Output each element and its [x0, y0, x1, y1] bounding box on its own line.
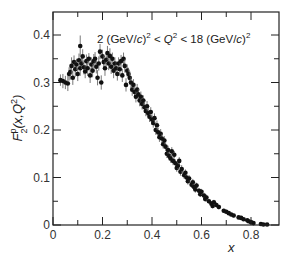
- marker: [152, 116, 157, 121]
- marker: [179, 167, 184, 172]
- marker: [204, 195, 209, 200]
- marker: [87, 56, 92, 61]
- y-tick-label: 0.3: [33, 76, 50, 90]
- marker: [124, 83, 129, 88]
- data-point: [78, 35, 83, 56]
- marker: [96, 61, 101, 66]
- marker: [194, 183, 199, 188]
- y-tick-label: 0: [43, 218, 50, 232]
- x-tick-label: 0.8: [243, 228, 260, 242]
- marker: [115, 72, 120, 77]
- marker: [120, 73, 125, 78]
- data-point: [231, 213, 236, 218]
- marker: [88, 73, 93, 78]
- x-tick-label: 0.6: [193, 228, 210, 242]
- marker: [172, 152, 177, 157]
- marker: [75, 72, 80, 77]
- marker: [155, 123, 160, 128]
- x-axis-label: x: [227, 240, 235, 255]
- y-tick-label: 0.2: [33, 123, 50, 137]
- marker: [231, 213, 236, 218]
- marker: [199, 189, 204, 194]
- marker: [118, 67, 123, 72]
- marker: [85, 66, 90, 71]
- marker: [162, 138, 167, 143]
- marker: [99, 80, 104, 85]
- y-axis-label: Fp2(x,Q2): [8, 95, 29, 142]
- marker: [80, 54, 85, 59]
- y-tick-label: 0.4: [33, 28, 50, 42]
- x-tick-label: 0: [50, 228, 57, 242]
- marker: [122, 64, 127, 69]
- marker: [74, 62, 79, 67]
- x-tick-label: 0.4: [144, 228, 161, 242]
- q2-range-annotation: 2 (GeV/c)2 < Q2 < 18 (GeV/c)2: [97, 31, 251, 45]
- y-tick-label: 0.1: [33, 171, 50, 185]
- marker: [109, 65, 114, 70]
- marker: [145, 104, 150, 109]
- f2-structure-function-chart: 00.20.40.60.800.10.20.30.4 2 (GeV/c)2 < …: [0, 0, 286, 259]
- marker: [148, 110, 153, 115]
- marker: [217, 205, 222, 210]
- marker: [177, 159, 182, 164]
- x-tick-label: 0.2: [94, 228, 111, 242]
- marker: [187, 176, 192, 181]
- marker: [90, 68, 95, 73]
- data-points: [58, 35, 269, 226]
- marker: [95, 75, 100, 80]
- marker: [78, 44, 83, 49]
- marker: [66, 81, 71, 86]
- data-point: [124, 78, 129, 91]
- marker: [110, 56, 115, 61]
- marker: [103, 66, 108, 71]
- marker: [71, 75, 76, 80]
- marker: [69, 64, 74, 69]
- marker: [98, 49, 103, 54]
